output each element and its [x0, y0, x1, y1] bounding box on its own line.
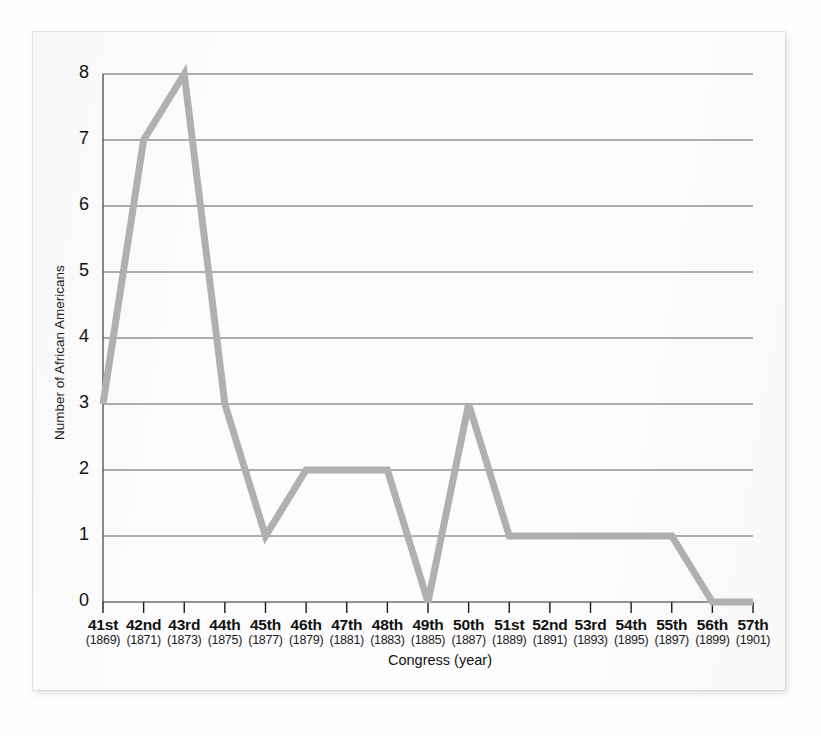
x-tick-mark-group [103, 602, 753, 613]
chart-page: Number of African Americans 012345678 41… [0, 0, 821, 736]
y-axis-title: Number of African Americans [52, 265, 67, 440]
y-tick-label: 8 [65, 62, 89, 83]
x-axis-title: Congress (year) [290, 652, 590, 668]
y-tick-label: 1 [65, 524, 89, 545]
y-tick-label: 4 [65, 326, 89, 347]
y-tick-label: 3 [65, 392, 89, 413]
y-tick-label: 7 [65, 128, 89, 149]
y-tick-label: 6 [65, 194, 89, 215]
y-tick-label: 2 [65, 458, 89, 479]
gridline-group [103, 74, 753, 536]
y-tick-label: 5 [65, 260, 89, 281]
x-tick-label-year: (1901) [727, 633, 779, 648]
x-tick-label-congress: 57th [727, 616, 779, 633]
x-tick-label: 57th(1901) [727, 616, 779, 648]
y-tick-label: 0 [65, 590, 89, 611]
